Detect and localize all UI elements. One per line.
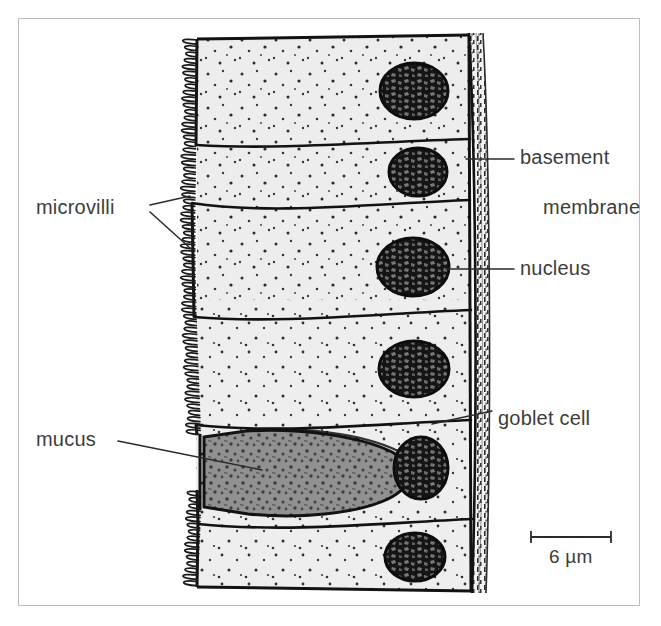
label-goblet-cell: goblet cell	[498, 406, 590, 430]
leader-microvilli-lower	[150, 212, 190, 248]
nucleus	[379, 341, 449, 397]
label-basement-membrane-line1: basement	[520, 146, 609, 168]
scale-bar	[531, 531, 611, 543]
label-mucus: mucus	[36, 427, 96, 451]
label-basement-membrane: basement membrane	[520, 145, 640, 220]
label-basement-membrane-line2: membrane	[543, 196, 640, 218]
nucleus	[389, 148, 447, 196]
scale-bar-label: 6 µm	[549, 545, 592, 569]
figure-container: microvilli mucus basement membrane nucle…	[0, 0, 661, 626]
nucleus	[385, 533, 445, 581]
nucleus	[380, 63, 448, 119]
goblet-cell	[200, 429, 410, 516]
label-nucleus: nucleus	[520, 256, 590, 280]
nucleus	[377, 238, 449, 296]
nucleus	[394, 437, 448, 499]
label-microvilli: microvilli	[36, 195, 115, 219]
epithelium-diagram	[0, 0, 661, 626]
